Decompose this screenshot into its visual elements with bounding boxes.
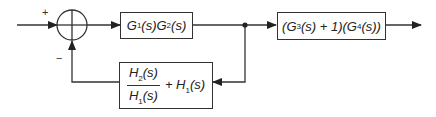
minus-sign: −: [56, 52, 62, 64]
h-fraction: H2(s) H1(s): [127, 65, 160, 105]
feedback-takeoff-line: [213, 25, 245, 82]
feedback-return-line: [72, 41, 119, 82]
block-feedback-h: H2(s) H1(s) + H1(s): [119, 62, 213, 109]
block-g3g4: (G3(s) + 1)(G4(s)): [277, 12, 386, 40]
block-g1g2: G1(s)G2(s): [120, 12, 193, 39]
plus-sign: +: [42, 6, 48, 18]
h-addend: + H1(s): [165, 77, 205, 95]
takeoff-point: [242, 22, 247, 27]
